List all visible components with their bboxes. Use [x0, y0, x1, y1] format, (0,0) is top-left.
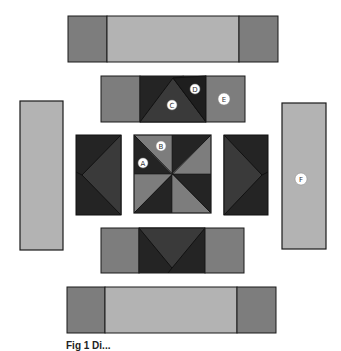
top-strip-right-square	[239, 16, 278, 62]
right-geese-block	[224, 135, 268, 215]
label-a-text: A	[141, 160, 146, 168]
label-b: B	[156, 141, 166, 151]
label-a: A	[138, 158, 148, 168]
bottom-border-strip	[67, 287, 276, 333]
label-d: D	[190, 84, 200, 94]
figure-caption: Fig 1 Di...	[66, 340, 110, 351]
label-c: C	[167, 100, 177, 110]
left-side-strip	[20, 101, 63, 250]
top-border-strip	[68, 16, 278, 62]
bottom-strip-right-square	[237, 287, 276, 333]
bottom-strip-center	[105, 287, 237, 333]
bottom-strip-left-square	[67, 287, 105, 333]
top-strip-left-square	[68, 16, 107, 62]
label-d-text: D	[192, 86, 197, 94]
pinwheel-block	[134, 135, 211, 213]
bottom-geese-row	[101, 228, 244, 273]
label-f-text: F	[299, 176, 303, 184]
label-b-text: B	[159, 143, 164, 151]
label-e: E	[218, 93, 230, 105]
label-e-text: E	[222, 96, 226, 104]
top-strip-center	[107, 16, 239, 62]
label-f: F	[295, 173, 307, 185]
top-row-left-square	[101, 76, 140, 122]
bottom-row-left-square	[101, 228, 139, 273]
bottom-row-right-square	[205, 228, 244, 273]
left-geese-block	[76, 135, 121, 215]
label-c-text: C	[170, 102, 175, 110]
